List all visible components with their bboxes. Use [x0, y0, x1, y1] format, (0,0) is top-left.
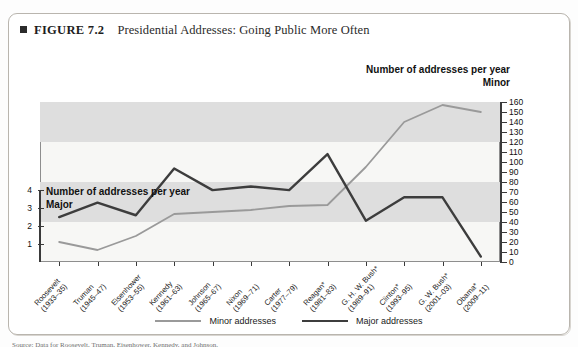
- x-axis-tick: [59, 262, 60, 266]
- x-axis-tick: [443, 262, 444, 266]
- right-axis-tick-label: 70: [509, 188, 518, 196]
- x-axis-label: Reagan*(1981–83): [302, 277, 338, 314]
- right-axis-tick: [502, 202, 507, 203]
- legend-label: Minor addresses: [209, 316, 276, 326]
- x-axis-tick: [213, 262, 214, 266]
- right-axis-tick-label: 130: [509, 128, 523, 136]
- right-axis-tick-label: 100: [509, 158, 523, 166]
- x-axis-tick: [404, 262, 405, 266]
- right-axis-tick-label: 90: [509, 168, 518, 176]
- right-axis-tick: [502, 112, 507, 113]
- legend-item[interactable]: Minor addresses: [155, 316, 276, 326]
- right-axis-tick-label: 80: [509, 178, 518, 186]
- left-axis-tick: [38, 190, 44, 191]
- right-axis-tick: [502, 232, 507, 233]
- series-line-minor: [59, 105, 481, 250]
- x-axis-tick: [289, 262, 290, 266]
- right-axis-tick-label: 20: [509, 238, 518, 246]
- x-axis-label: G. W. Bush*(2001–03): [417, 272, 458, 314]
- left-axis-tick: [38, 226, 44, 227]
- left-axis-ticks: 1234: [22, 190, 38, 262]
- right-axis-tick: [502, 162, 507, 163]
- right-axis-tick: [502, 252, 507, 253]
- x-axis-label: G. H. W. Bush*(1989–91): [340, 265, 387, 314]
- x-axis-label: Johnson(1965–67): [187, 277, 223, 314]
- right-axis-tick-label: 110: [509, 148, 523, 156]
- figure-page: FIGURE 7.2 Presidential Addresses: Going…: [0, 0, 578, 347]
- right-axis-heading: Number of addresses per year Minor: [366, 64, 510, 89]
- x-axis-tick: [481, 262, 482, 266]
- right-axis-tick: [502, 242, 507, 243]
- right-axis-tick: [502, 182, 507, 183]
- right-axis-tick-label: 160: [509, 98, 523, 106]
- right-axis-tick-label: 10: [509, 248, 518, 256]
- right-axis-heading-line2: Minor: [366, 77, 510, 90]
- legend-swatch: [155, 320, 201, 322]
- left-axis-tick-label: 2: [18, 222, 32, 230]
- right-axis-tick: [502, 142, 507, 143]
- left-axis-tick: [38, 208, 44, 209]
- x-axis-tick: [328, 262, 329, 266]
- right-axis-tick: [502, 192, 507, 193]
- source-note: Source: Data for Roosevelt, Truman, Eise…: [12, 341, 432, 347]
- x-axis-label: Clinton*(1993–95): [378, 277, 414, 314]
- right-axis-tick-label: 150: [509, 108, 523, 116]
- x-axis-tick: [98, 262, 99, 266]
- legend-item[interactable]: Major addresses: [302, 316, 423, 326]
- left-axis-heading: Number of addresses per year Major: [46, 186, 190, 211]
- x-axis-label: Truman(1945–47): [72, 277, 108, 314]
- right-axis-heading-line1: Number of addresses per year: [366, 64, 510, 77]
- x-axis-label: Nixon(1969–71): [225, 277, 261, 314]
- x-axis-label: Kennedy(1961–63): [148, 277, 184, 314]
- chart-legend: Minor addressesMajor addresses: [0, 316, 578, 326]
- x-axis-label: Eisenhower(1953–55): [110, 273, 150, 314]
- left-axis-heading-line1: Number of addresses per year: [46, 186, 190, 199]
- left-axis-heading-line2: Major: [46, 199, 190, 212]
- right-axis-tick: [502, 212, 507, 213]
- caption-bullet-icon: [20, 26, 27, 33]
- legend-swatch: [302, 320, 348, 322]
- plot-area: [40, 102, 500, 262]
- x-axis-labels: Roosevelt(1933–35)Truman(1945–47)Eisenho…: [0, 262, 578, 324]
- figure-caption: FIGURE 7.2 Presidential Addresses: Going…: [20, 23, 370, 38]
- figure-label: FIGURE 7.2: [34, 23, 104, 38]
- left-axis-tick-label: 1: [18, 240, 32, 248]
- right-axis-tick: [502, 152, 507, 153]
- x-axis-tick: [251, 262, 252, 266]
- right-axis-tick: [502, 132, 507, 133]
- plot-lines: [40, 102, 500, 262]
- right-axis-ticks: 0102030405060708090100110120130140150160: [500, 102, 540, 263]
- left-axis-tick-label: 3: [18, 204, 32, 212]
- x-axis-tick: [366, 262, 367, 266]
- right-axis-tick-label: 40: [509, 218, 518, 226]
- right-axis-tick-label: 60: [509, 198, 518, 206]
- right-axis-tick-label: 120: [509, 138, 523, 146]
- right-axis-tick-label: 30: [509, 228, 518, 236]
- x-axis-label: Obama*(2009–11): [455, 277, 491, 314]
- legend-label: Major addresses: [356, 316, 423, 326]
- x-axis-label: Carter(1977–79): [263, 277, 299, 314]
- right-axis-tick: [502, 172, 507, 173]
- x-axis-label: Roosevelt(1933–35): [33, 277, 69, 314]
- right-axis-tick: [502, 102, 507, 103]
- page-title: Presidential Addresses: Going Public Mor…: [117, 23, 369, 38]
- right-axis-tick: [502, 122, 507, 123]
- right-axis-tick-label: 50: [509, 208, 518, 216]
- right-axis-tick: [502, 222, 507, 223]
- x-axis-tick: [174, 262, 175, 266]
- left-axis-tick-label: 4: [18, 186, 32, 194]
- left-axis-tick: [38, 244, 44, 245]
- x-axis-tick: [136, 262, 137, 266]
- right-axis-tick-label: 140: [509, 118, 523, 126]
